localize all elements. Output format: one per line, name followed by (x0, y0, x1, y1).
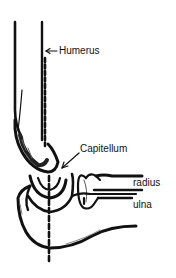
ulna-olecranon (18, 186, 136, 248)
radius-head (78, 175, 98, 208)
elbow-anatomy-drawing (0, 0, 176, 278)
label-radius: radius (133, 178, 160, 188)
capitellum-pointer-line (62, 153, 79, 168)
ulna-upper-edge (72, 193, 136, 196)
radius-shaft-top (96, 175, 142, 176)
humerus-inner-sliver (18, 90, 22, 130)
label-capitellum: Capitellum (80, 144, 127, 154)
label-humerus: Humerus (59, 46, 100, 56)
label-ulna: ulna (133, 200, 152, 210)
